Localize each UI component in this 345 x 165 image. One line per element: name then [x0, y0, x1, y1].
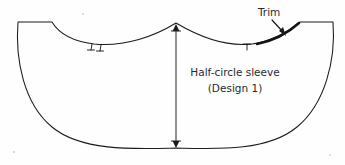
- paper-speck: [13, 151, 15, 153]
- double-notch-left: [88, 44, 104, 51]
- center-dimension-arrow-bottom: [173, 141, 180, 148]
- paper-speck: [329, 154, 331, 156]
- trim-label: Trim: [257, 6, 280, 18]
- caption-line-1: Half-circle sleeve: [190, 66, 279, 78]
- pattern-diagram-canvas: Trim Half-circle sleeve (Design 1): [0, 0, 345, 165]
- half-circle-sleeve-drawing: Trim Half-circle sleeve (Design 1): [0, 0, 345, 165]
- paper-speck: [82, 13, 84, 15]
- caption-line-2: (Design 1): [208, 82, 262, 94]
- sleeve-outline-path: [17, 22, 333, 149]
